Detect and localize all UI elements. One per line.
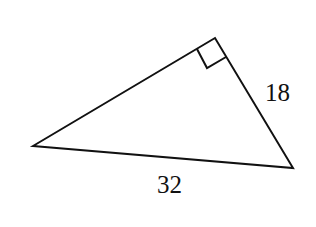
right-angle-marker (197, 49, 226, 68)
diagram-canvas: 18 32 (0, 0, 316, 227)
leg-label: 18 (265, 79, 290, 106)
triangle (33, 38, 293, 168)
hypotenuse-label: 32 (157, 171, 182, 198)
triangle-figure: 18 32 (0, 0, 316, 227)
